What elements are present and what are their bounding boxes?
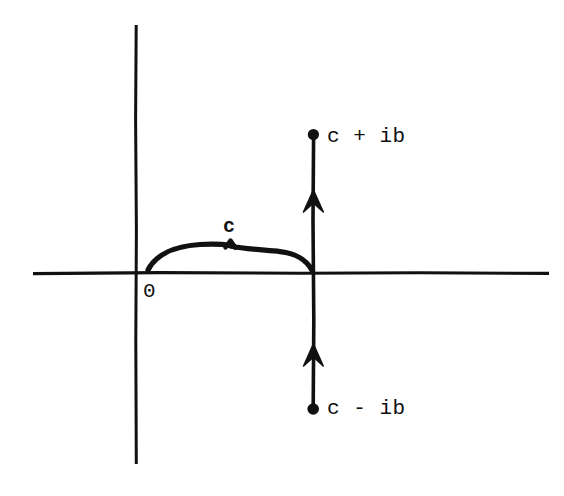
origin-label: 0 [143, 281, 156, 302]
brace-right-arc [231, 246, 313, 271]
axes-group [33, 25, 549, 464]
bromwich-contour-figure: 0 c c + ib c - ib [0, 0, 564, 496]
vertical-axis-line [136, 25, 137, 464]
figure-canvas [0, 0, 564, 496]
endpoint-dot-lower [307, 403, 319, 415]
contour-line [313, 136, 314, 408]
endpoint-dot-upper [308, 129, 319, 140]
offset-label-c: c [223, 217, 235, 237]
upper-endpoint-label: c + ib [327, 126, 406, 147]
lower-endpoint-label: c - ib [327, 398, 406, 419]
horizontal-axis-line [33, 273, 549, 274]
offset-brace-group [148, 241, 313, 272]
brace-left-arc [148, 244, 230, 270]
